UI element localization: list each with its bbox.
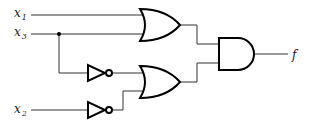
- wire-or1-out: [179, 25, 219, 44]
- wire-x3-branch: [59, 34, 89, 73]
- and-gate: [219, 38, 254, 70]
- logic-circuit-diagram: x1 x3 x2 f: [0, 0, 313, 129]
- inversion-bubble: [106, 107, 112, 113]
- input-label-x2: x2: [14, 102, 27, 118]
- or-gate-2: [140, 66, 180, 98]
- not-gate-1: [88, 65, 112, 81]
- not-gate-2: [88, 102, 112, 118]
- output-label-f: f: [291, 48, 299, 62]
- wire-not2-out: [113, 91, 146, 110]
- wire-or2-out: [179, 63, 219, 82]
- input-label-x3: x3: [14, 25, 27, 41]
- input-label-x1: x1: [14, 6, 27, 22]
- junction-dot: [57, 32, 61, 36]
- or-gate-1: [140, 9, 180, 41]
- inversion-bubble: [106, 70, 112, 76]
